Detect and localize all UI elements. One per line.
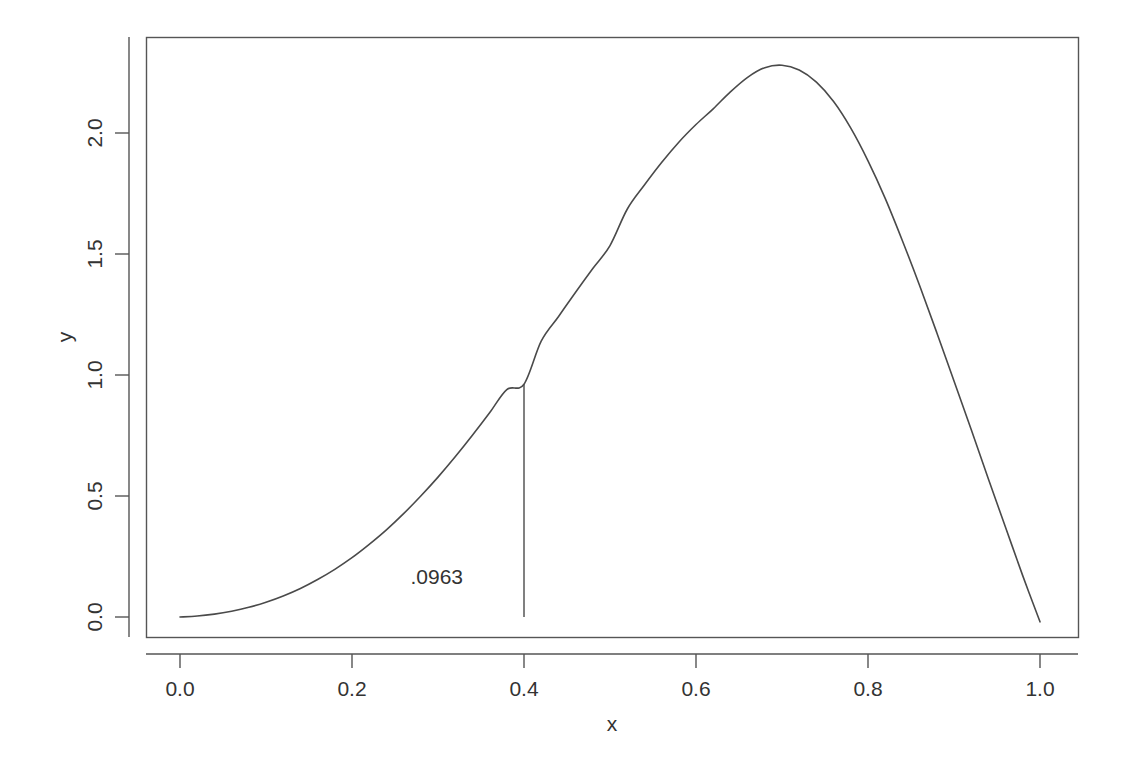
- y-tick-label-1: 0.5: [83, 481, 106, 510]
- plot-data-area: .0963: [180, 65, 1040, 622]
- y-axis: 0.0 0.5 1.0 1.5 2.0 y: [53, 37, 129, 637]
- x-axis: 0.0 0.2 0.4 0.6 0.8 1.0 x: [146, 654, 1078, 735]
- y-axis-ticks: [115, 133, 129, 617]
- x-axis-title: x: [607, 712, 618, 735]
- x-axis-tick-labels: 0.0 0.2 0.4 0.6 0.8 1.0: [165, 677, 1054, 700]
- x-tick-label-3: 0.6: [681, 677, 710, 700]
- y-tick-label-4: 2.0: [83, 118, 106, 147]
- x-tick-label-4: 0.8: [853, 677, 882, 700]
- y-tick-label-3: 1.5: [83, 239, 106, 268]
- y-axis-title: y: [53, 331, 76, 342]
- x-tick-label-5: 1.0: [1025, 677, 1054, 700]
- x-tick-label-1: 0.2: [337, 677, 366, 700]
- plot-root: 0.0 0.2 0.4 0.6 0.8 1.0 x 0.0 0.5: [0, 0, 1136, 766]
- y-tick-label-2: 1.0: [83, 360, 106, 389]
- x-tick-label-0: 0.0: [165, 677, 194, 700]
- density-curve: [180, 65, 1040, 622]
- x-tick-label-2: 0.4: [509, 677, 539, 700]
- area-annotation-label: .0963: [410, 565, 463, 588]
- y-tick-label-0: 0.0: [83, 602, 106, 631]
- x-axis-ticks: [180, 654, 1040, 668]
- chart-figure: 0.0 0.2 0.4 0.6 0.8 1.0 x 0.0 0.5: [0, 0, 1136, 766]
- y-axis-tick-labels: 0.0 0.5 1.0 1.5 2.0: [83, 118, 106, 631]
